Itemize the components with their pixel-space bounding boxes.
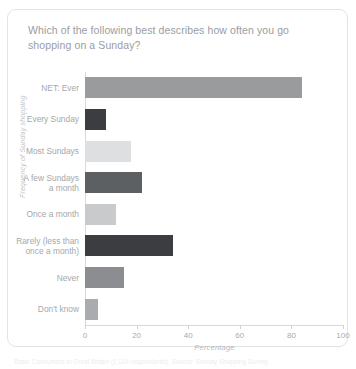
bar[interactable] (85, 235, 173, 256)
x-axis-line (85, 325, 344, 326)
bar[interactable] (85, 141, 131, 162)
category-label: Once a month (0, 209, 79, 219)
bar-row: NET: Ever (85, 77, 343, 98)
bar[interactable] (85, 204, 116, 225)
x-tick (343, 325, 344, 329)
bar-row: Never (85, 267, 343, 288)
bar-row: A few Sundays a month (85, 172, 343, 193)
bar-row: Don't know (85, 299, 343, 320)
x-tick (291, 325, 292, 329)
bar-row: Once a month (85, 204, 343, 225)
bar-row: Every Sunday (85, 109, 343, 130)
bar[interactable] (85, 172, 142, 193)
x-tick (137, 325, 138, 329)
chart-card: Which of the following best describes ho… (7, 9, 348, 347)
x-axis-title: Percentage (85, 343, 344, 352)
category-label: NET: Ever (0, 83, 79, 93)
x-tick-label: 80 (287, 331, 296, 340)
bar[interactable] (85, 109, 106, 130)
chart-footnote: Base: Consumers in Great Britain (1,014 … (14, 357, 344, 366)
category-label: Every Sunday (0, 114, 79, 124)
bar-row: Most Sundays (85, 141, 343, 162)
bar[interactable] (85, 77, 302, 98)
x-tick-label: 0 (83, 331, 87, 340)
category-label: Never (0, 273, 79, 283)
category-label: Rarely (less than once a month) (0, 236, 79, 256)
category-label: A few Sundays a month (0, 173, 79, 193)
chart-title: Which of the following best describes ho… (28, 23, 328, 53)
x-tick-label: 20 (132, 331, 141, 340)
x-tick-label: 60 (235, 331, 244, 340)
bar[interactable] (85, 267, 124, 288)
x-tick (240, 325, 241, 329)
category-label: Don't know (0, 304, 79, 314)
x-tick-label: 100 (336, 331, 349, 340)
bar-row: Rarely (less than once a month) (85, 235, 343, 256)
plot-area: NET: EverEvery SundayMost SundaysA few S… (85, 72, 343, 325)
x-tick (188, 325, 189, 329)
x-tick (85, 325, 86, 329)
bar[interactable] (85, 299, 98, 320)
x-tick-label: 40 (184, 331, 193, 340)
category-label: Most Sundays (0, 146, 79, 156)
